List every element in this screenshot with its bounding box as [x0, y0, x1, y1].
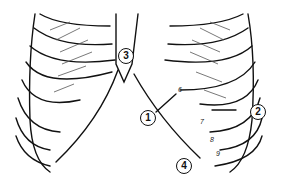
- rib-cage-drawing: [0, 0, 283, 192]
- callout-4: 4: [176, 158, 192, 174]
- rib-number-9: 9: [216, 150, 220, 157]
- rib-number-8: 8: [210, 136, 214, 143]
- callout-3: 3: [118, 48, 134, 64]
- callout-2: 2: [250, 104, 266, 120]
- rib-number-7: 7: [200, 118, 204, 125]
- callout-1: 1: [140, 110, 156, 126]
- rib-number-6: 6: [178, 86, 182, 93]
